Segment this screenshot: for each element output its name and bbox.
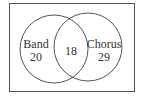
band-only-count: 20	[22, 51, 50, 63]
chorus-only-count: 29	[84, 51, 124, 63]
band-label: Band	[22, 38, 50, 50]
chorus-label: Chorus	[84, 38, 124, 50]
intersection-count: 18	[60, 45, 82, 57]
